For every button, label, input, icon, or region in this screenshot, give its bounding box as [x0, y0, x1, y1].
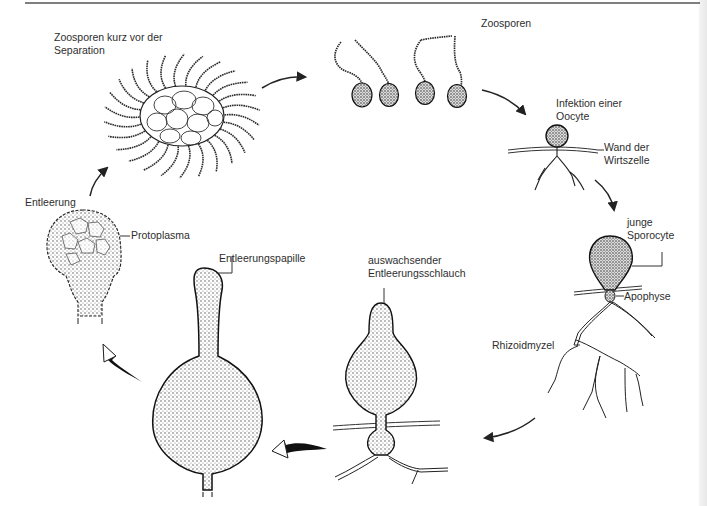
flagellum	[219, 105, 260, 110]
flagellum	[219, 122, 254, 140]
label-entleerungspapille: Entleerungspapille	[219, 252, 305, 265]
flagellum	[216, 94, 256, 103]
label-protoplasma: Protoplasma	[131, 229, 190, 242]
label-apophyse: Apophyse	[624, 290, 671, 303]
zoospore-cluster	[104, 54, 259, 178]
flagellum	[196, 62, 221, 92]
flagellum	[110, 92, 145, 110]
flagellum	[161, 142, 178, 176]
label-entleerungsschlauch: auswachsender Entleerungsschlauch	[368, 254, 465, 280]
flagellum	[117, 133, 154, 150]
infection-oocyte	[508, 125, 598, 190]
flagellum	[180, 142, 190, 178]
label-junge-sporocyte: junge Sporocyte	[627, 216, 674, 242]
flagellum	[147, 60, 160, 94]
discharge-sporangium	[47, 210, 121, 324]
flagellum	[104, 122, 145, 127]
zoospores	[335, 36, 467, 108]
flagellum	[119, 79, 148, 104]
flagellum	[161, 55, 169, 91]
flagellum	[216, 128, 245, 153]
flagellum	[196, 140, 204, 176]
flagellum	[204, 137, 217, 171]
life-cycle-diagram	[0, 0, 707, 506]
discharge-papilla	[153, 268, 262, 497]
flagellum	[210, 82, 247, 99]
label-infektion-oocyte: Infektion einer Oocyte	[556, 97, 622, 123]
label-entleerung: Entleerung	[25, 196, 76, 209]
arrow-1-2	[262, 77, 305, 88]
arrow-7-1	[90, 168, 107, 196]
flagellum	[108, 128, 148, 137]
young-sporocyte	[548, 236, 655, 418]
flagellum	[186, 56, 203, 90]
flagellum	[129, 137, 161, 161]
label-zoosporen-separation: Zoosporen kurz vor der Separation	[54, 31, 163, 57]
label-wand-der-wirtszelle: Wand der Wirtszelle	[604, 141, 650, 167]
growing-discharge-tube	[333, 303, 448, 484]
flagellum	[220, 115, 259, 126]
arrow-3-4	[595, 180, 614, 210]
arrow-5-6	[272, 440, 327, 458]
flagellum	[174, 54, 184, 90]
arrow-4-5	[485, 418, 535, 438]
label-rhizoidmyzel: Rhizoidmyzel	[492, 339, 554, 352]
label-zoosporen: Zoosporen	[481, 17, 531, 30]
flagellum	[144, 140, 169, 170]
flagellum	[105, 107, 144, 118]
flagellum	[204, 71, 236, 95]
arrow-6-7	[103, 344, 142, 382]
arrow-2-3	[482, 90, 525, 114]
